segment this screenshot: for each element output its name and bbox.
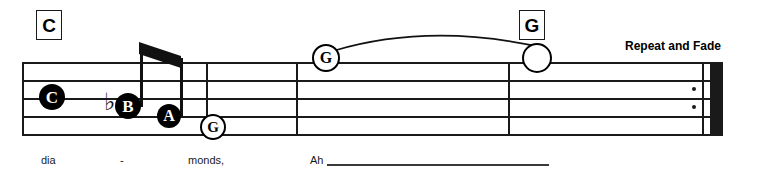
barline-repeat-thin bbox=[702, 62, 704, 136]
staff-line-5 bbox=[22, 134, 723, 136]
chord-symbol-label: C bbox=[42, 16, 56, 35]
chord-symbol-box-c[interactable]: C bbox=[36, 10, 62, 40]
note-g-slur-start[interactable]: G bbox=[312, 44, 340, 72]
lyric-dia: dia bbox=[41, 155, 56, 166]
note-b-flat[interactable]: B bbox=[115, 93, 141, 119]
note-letter: G bbox=[207, 120, 219, 135]
chord-symbol-box-g[interactable]: G bbox=[519, 10, 545, 40]
lyric-monds: monds, bbox=[188, 155, 224, 166]
note-g-low[interactable]: G bbox=[200, 114, 226, 140]
beam-and-slur-overlay bbox=[0, 0, 773, 181]
note-letter: G bbox=[320, 50, 332, 66]
repeat-dot-lower bbox=[692, 105, 696, 109]
note-a[interactable]: A bbox=[157, 104, 181, 128]
stem-a bbox=[180, 58, 183, 117]
barline-measure-3 bbox=[508, 62, 510, 136]
note-letter: A bbox=[163, 108, 175, 124]
staff-line-2 bbox=[22, 80, 723, 82]
repeat-dot-upper bbox=[692, 87, 696, 91]
slur-g-to-g bbox=[333, 36, 545, 51]
note-g-whole[interactable] bbox=[522, 43, 552, 73]
lyric-ah: Ah bbox=[310, 155, 323, 166]
lyric-hyphen: - bbox=[120, 155, 124, 166]
music-sheet-excerpt: C G ♭ C B A G G dia - monds, Ah Repeat a… bbox=[0, 0, 773, 181]
note-letter: B bbox=[122, 98, 133, 115]
chord-symbol-label: G bbox=[525, 16, 540, 35]
note-c[interactable]: C bbox=[39, 84, 65, 110]
eighth-note-beam bbox=[139, 42, 181, 68]
flat-sign-icon: ♭ bbox=[104, 90, 115, 114]
barline-measure-2 bbox=[296, 62, 298, 136]
stem-b-flat bbox=[140, 48, 143, 107]
repeat-barline-thick bbox=[710, 62, 723, 136]
barline-opening bbox=[22, 62, 24, 136]
note-letter: C bbox=[46, 89, 58, 106]
lyric-extender-ah bbox=[327, 164, 549, 166]
staff-line-1 bbox=[22, 62, 723, 64]
repeat-and-fade-text: Repeat and Fade bbox=[625, 40, 721, 52]
